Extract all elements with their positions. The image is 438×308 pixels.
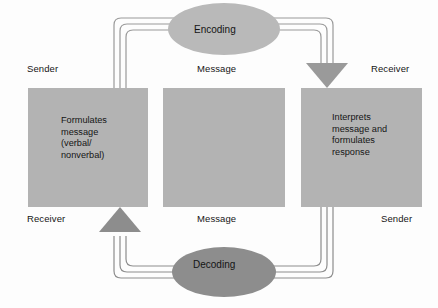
encoding-label: Encoding: [194, 24, 236, 35]
label-sender-top: Sender: [27, 63, 58, 74]
communication-model-diagram: Sender Message Receiver Receiver Message…: [0, 0, 438, 308]
decoding-label: Decoding: [193, 259, 235, 270]
bottom-flow-right-middle: [270, 207, 327, 272]
message-channel-box: [163, 88, 285, 207]
sender-process-box: Formulates message (verbal/ nonverbal): [28, 88, 148, 207]
bottom-flow-lines-left: [114, 236, 182, 278]
label-message-top: Message: [197, 63, 236, 74]
bottom-flow-lines-right: [267, 207, 333, 278]
bottom-flow-right-inner: [267, 207, 321, 266]
receiver-process-text: Interprets message and formulates respon…: [332, 112, 387, 158]
top-flow-line-outer: [114, 18, 176, 88]
label-sender-bottom: Sender: [381, 213, 412, 224]
arrow-down-head-icon: [306, 63, 348, 88]
receiver-process-box: Interprets message and formulates respon…: [301, 88, 422, 207]
sender-process-text: Formulates message (verbal/ nonverbal): [61, 115, 107, 161]
arrow-up-head-icon: [99, 207, 141, 232]
decoding-ellipse: [172, 247, 276, 297]
bottom-flow-left-inner: [126, 236, 182, 266]
label-message-bottom: Message: [197, 213, 236, 224]
label-receiver-bottom: Receiver: [27, 213, 65, 224]
bottom-flow-right-outer: [272, 207, 333, 278]
label-receiver-top: Receiver: [371, 63, 409, 74]
